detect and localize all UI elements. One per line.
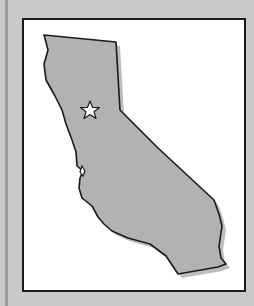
california-map: [0, 0, 254, 306]
state-outline: [44, 35, 226, 274]
